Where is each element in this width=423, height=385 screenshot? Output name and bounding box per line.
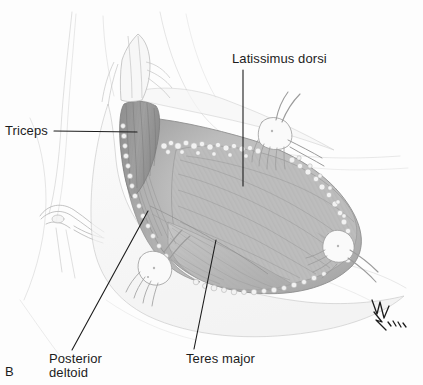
panel-letter: B [5, 365, 14, 379]
label-posterior-deltoid-line1: Posterior [49, 351, 102, 366]
label-posterior-deltoid-line2: deltoid [49, 365, 88, 380]
anatomical-illustration [0, 0, 423, 385]
figure-panel-b: Triceps Latissimus dorsi Teres major Pos… [0, 0, 423, 385]
label-posterior-deltoid: Posteriordeltoid [49, 352, 102, 380]
label-triceps: Triceps [5, 124, 48, 138]
label-latissimus-dorsi: Latissimus dorsi [232, 52, 327, 66]
label-teres-major: Teres major [186, 352, 255, 366]
